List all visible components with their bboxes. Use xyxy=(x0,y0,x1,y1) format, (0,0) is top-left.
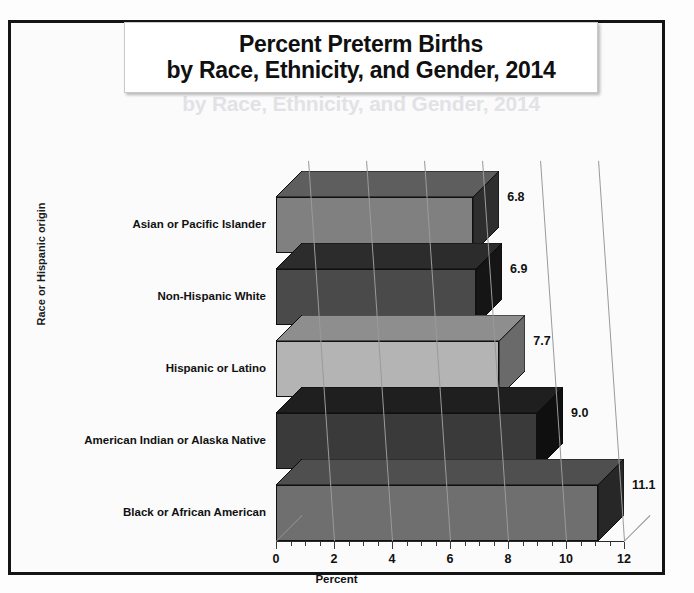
x-tick-minor xyxy=(494,542,495,546)
x-tick-label: 4 xyxy=(389,552,396,566)
bar-value-label: 6.9 xyxy=(510,262,527,276)
title-card: Percent Preterm Births by Race, Ethnicit… xyxy=(124,22,598,93)
bar-value-label: 11.1 xyxy=(632,478,656,492)
x-tick-minor xyxy=(349,542,350,546)
x-tick-major xyxy=(508,542,509,549)
x-tick-label: 10 xyxy=(559,552,573,566)
title-line-2: by Race, Ethnicity, and Gender, 2014 xyxy=(167,58,556,84)
x-tick-major xyxy=(566,542,567,549)
floor-edge xyxy=(624,515,651,542)
x-tick-minor xyxy=(479,542,480,546)
category-label: Black or African American xyxy=(36,506,266,518)
x-tick-major xyxy=(334,542,335,549)
x-tick-minor xyxy=(595,542,596,546)
x-tick-label: 2 xyxy=(331,552,338,566)
category-label: Hispanic or Latino xyxy=(36,362,266,374)
x-tick-minor xyxy=(363,542,364,546)
x-tick-minor xyxy=(523,542,524,546)
x-tick-label: 6 xyxy=(447,552,454,566)
x-tick-major xyxy=(450,542,451,549)
y-axis-title: Race or Hispanic origin xyxy=(35,184,47,344)
x-tick-minor xyxy=(320,542,321,546)
title-line-1: Percent Preterm Births xyxy=(239,32,483,58)
x-tick-minor xyxy=(378,542,379,546)
bar-value-label: 9.0 xyxy=(571,406,588,420)
slide-canvas: by Race, Ethnicity, and Gender, 2014 Rac… xyxy=(0,0,694,593)
x-tick-minor xyxy=(436,542,437,546)
x-tick-major xyxy=(624,542,625,549)
bar-front-face[interactable] xyxy=(276,485,598,541)
x-tick-minor xyxy=(421,542,422,546)
x-tick-major xyxy=(392,542,393,549)
category-label: Asian or Pacific Islander xyxy=(36,218,266,230)
x-tick-minor xyxy=(465,542,466,546)
bar-value-label: 6.8 xyxy=(507,190,524,204)
bar-top-face xyxy=(276,243,502,269)
x-axis-title: Percent xyxy=(8,573,665,585)
bar-top-face xyxy=(276,315,525,341)
x-tick-minor xyxy=(407,542,408,546)
x-tick-minor xyxy=(305,542,306,546)
category-label: American Indian or Alaska Native xyxy=(36,434,266,446)
x-tick-minor xyxy=(552,542,553,546)
x-tick-minor xyxy=(291,542,292,546)
x-tick-minor xyxy=(581,542,582,546)
category-label: Non-Hispanic White xyxy=(36,290,266,302)
chart-plot-area: Race or Hispanic origin 024681012 Percen… xyxy=(8,20,665,575)
bar-top-face xyxy=(276,387,563,413)
x-tick-label: 0 xyxy=(273,552,280,566)
x-tick-major xyxy=(276,542,277,549)
bar-value-label: 7.7 xyxy=(533,334,550,348)
x-tick-label: 12 xyxy=(617,552,631,566)
x-tick-minor xyxy=(610,542,611,546)
x-tick-minor xyxy=(537,542,538,546)
x-tick-label: 8 xyxy=(505,552,512,566)
